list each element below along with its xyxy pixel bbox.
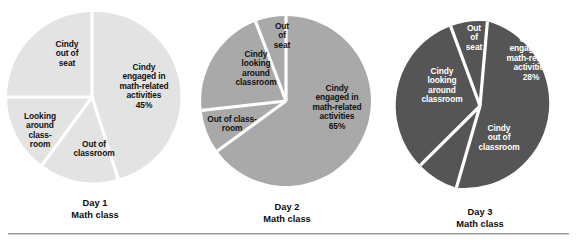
pie-chart-day-3: Cindy engaged in math-related activities… — [385, 0, 577, 242]
pie-3-caption: Day 3 Math class — [405, 207, 555, 231]
pie-2-caption: Day 2 Math class — [212, 202, 362, 226]
pie-3-svg — [385, 0, 577, 210]
pie-1-svg — [0, 0, 190, 200]
pie-1-slice-out-of-seat — [7, 12, 92, 97]
bottom-divider-shadow — [8, 234, 569, 235]
pie-1-caption: Day 1 Math class — [20, 198, 170, 222]
pie-chart-day-1: Cindy engaged in math-related activities… — [0, 0, 190, 242]
pie-chart-day-2: Cindy engaged in math-related activities… — [190, 0, 385, 242]
pie-3-slices — [396, 21, 550, 188]
pie-2-svg — [190, 0, 385, 205]
figure-container: Cindy engaged in math-related activities… — [0, 0, 577, 242]
